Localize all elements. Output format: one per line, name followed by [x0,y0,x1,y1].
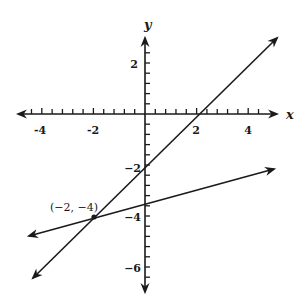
intersection-point [91,214,96,219]
x-axis-label: x [285,107,294,122]
x-tick-label: -4 [34,124,47,137]
intersection-label: (−2, −4) [50,201,98,214]
coordinate-graph: -4 -2 2 4 2 −2 −4 −6 x y (−2, −4) [0,0,302,302]
y-axis-label: y [143,17,153,32]
x-tick-label: 2 [192,124,200,137]
y-tick-label: −4 [124,211,141,224]
y-tick-label: 2 [130,58,138,71]
x-tick-label: 4 [244,124,252,137]
graph-canvas: -4 -2 2 4 2 −2 −4 −6 x y (−2, −4) [0,0,302,302]
line-y-equals-x-minus-2 [33,38,277,278]
y-tick-label: −6 [124,262,141,275]
x-tick-label: -2 [87,124,99,137]
y-tick-label: −2 [124,162,141,175]
